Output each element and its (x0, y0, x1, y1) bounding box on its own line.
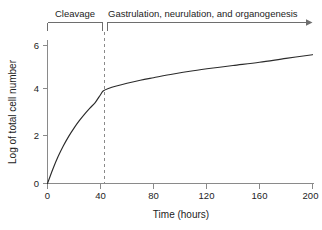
growth-curve-line (48, 55, 313, 184)
y-axis-title: Log of total cell number (7, 59, 18, 164)
y-tick-label-4: 4 (34, 83, 39, 94)
cleavage-phase-label: Cleavage (55, 8, 95, 19)
x-axis-title: Time (hours) (153, 209, 209, 220)
x-tick-label-120: 120 (199, 190, 215, 201)
x-axis-ticks (48, 184, 313, 189)
x-tick-label-200: 200 (303, 190, 319, 201)
y-tick-label-2: 2 (34, 130, 39, 141)
cell-number-growth-chart: Cleavage Gastrulation, neurulation, and … (0, 0, 322, 230)
arrow-head-icon (306, 19, 313, 26)
figure-container: Cleavage Gastrulation, neurulation, and … (0, 0, 322, 230)
y-tick-label-0: 0 (34, 178, 39, 189)
x-tick-label-40: 40 (95, 190, 106, 201)
y-tick-label-6: 6 (34, 40, 39, 51)
cleavage-bracket (48, 23, 103, 31)
y-axis-ticks (43, 46, 48, 184)
x-tick-label-0: 0 (45, 190, 50, 201)
x-tick-label-160: 160 (252, 190, 268, 201)
gastrulation-phase-label: Gastrulation, neurulation, and organogen… (108, 8, 298, 19)
x-tick-label-80: 80 (148, 190, 159, 201)
gastrulation-bracket (108, 19, 313, 30)
